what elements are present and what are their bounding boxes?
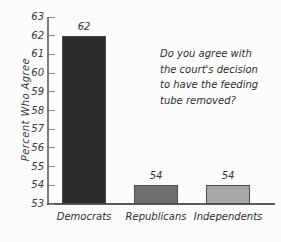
survey-question-annotation: Do you agree withthe court's decisionto …: [160, 46, 278, 108]
bar-value-democrats: 62: [64, 22, 104, 32]
annotation-line-4: tube removed?: [160, 93, 278, 109]
annotation-line-1: Do you agree with: [160, 46, 278, 62]
y-tick-label: 60: [20, 68, 44, 78]
bar-value-republicans: 54: [136, 171, 176, 181]
bar-chart: Percent Who Agree 6362616059585756555453…: [0, 0, 281, 242]
y-tick: 55: [0, 167, 44, 168]
y-tick-mark: [49, 54, 55, 55]
y-tick: 53: [0, 204, 44, 205]
y-tick-label: 55: [20, 162, 44, 172]
y-tick-label: 54: [20, 180, 44, 190]
y-tick-label: 53: [20, 199, 44, 209]
bar-value-independents: 54: [208, 171, 248, 181]
annotation-line-3: to have the feeding: [160, 77, 278, 93]
y-tick: 58: [0, 111, 44, 112]
bar-republicans[interactable]: [134, 185, 178, 204]
bar-democrats[interactable]: [62, 36, 106, 204]
annotation-line-2: the court's decision: [160, 62, 278, 78]
y-tick: 57: [0, 129, 44, 130]
y-tick-mark: [49, 129, 55, 130]
y-tick: 62: [0, 36, 44, 37]
y-tick-label: 61: [20, 49, 44, 59]
y-tick: 60: [0, 73, 44, 74]
y-tick-label: 63: [20, 12, 44, 22]
y-tick: 56: [0, 148, 44, 149]
y-tick-mark: [49, 91, 55, 92]
y-tick-mark: [49, 147, 55, 148]
y-tick: 59: [0, 92, 44, 93]
y-tick-mark: [49, 166, 55, 167]
y-tick-label: 58: [20, 106, 44, 116]
y-tick-mark: [49, 35, 55, 36]
y-tick: 61: [0, 54, 44, 55]
y-tick: 63: [0, 17, 44, 18]
y-tick-label: 62: [20, 31, 44, 41]
x-category-label-independents: Independents: [178, 212, 278, 222]
bar-independents[interactable]: [206, 185, 250, 204]
y-tick: 54: [0, 185, 44, 186]
y-tick-label: 56: [20, 143, 44, 153]
y-tick-mark: [49, 185, 55, 186]
y-tick-label: 57: [20, 124, 44, 134]
y-tick-mark: [49, 73, 55, 74]
y-tick-mark: [49, 204, 55, 205]
y-tick-label: 59: [20, 87, 44, 97]
y-tick-mark: [49, 110, 55, 111]
y-tick-mark: [49, 17, 55, 18]
